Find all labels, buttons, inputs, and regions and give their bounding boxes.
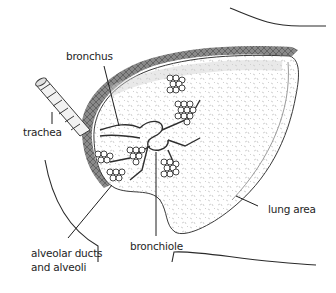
alveolar-leader [68, 185, 112, 238]
label-bronchus: bronchus [66, 50, 113, 63]
lung-diagram: bronchus trachea alveolar ducts and alve… [0, 0, 336, 293]
label-and-alveoli: and alveoli [31, 261, 86, 274]
label-lung-area: lung area [268, 203, 316, 216]
label-alveolar-ducts: alveolar ducts [31, 247, 102, 260]
label-trachea: trachea [23, 126, 62, 139]
label-bronchiole: bronchiole [130, 240, 183, 253]
